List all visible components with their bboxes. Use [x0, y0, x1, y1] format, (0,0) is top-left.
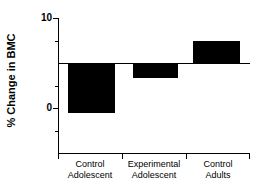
x-category-label-1-line-0: Experimental — [122, 159, 186, 170]
x-category-label-0-line-1: Adolescent — [58, 170, 122, 181]
x-category-label-1: Experimental Adolescent — [122, 159, 186, 181]
y-minor-tick-mark — [55, 86, 59, 87]
x-axis-category-labels: Control Adolescent Experimental Adolesce… — [58, 159, 250, 193]
y-minor-tick-mark — [55, 41, 59, 42]
x-category-label-2-line-0: Control — [186, 159, 250, 170]
x-category-label-0: Control Adolescent — [58, 159, 122, 181]
y-axis-title-text: % Change in BMC — [6, 33, 17, 127]
y-tick-label: 10 — [41, 13, 52, 23]
y-tick-mark — [53, 18, 59, 19]
bar-chart-figure: % Change in BMC 10 0 -10 -20 — [0, 0, 263, 193]
plot-area: 10 0 -10 -20 — [58, 18, 250, 153]
bar-experimental-adolescent — [133, 63, 178, 78]
bar-control-adults — [193, 41, 240, 63]
x-category-label-2: Control Adults — [186, 159, 250, 181]
x-category-label-2-line-1: Adults — [186, 170, 250, 181]
y-tick-mark — [53, 108, 59, 109]
x-category-label-1-line-1: Adolescent — [122, 170, 186, 181]
x-category-label-0-line-0: Control — [58, 159, 122, 170]
y-tick-label: 0 — [46, 103, 52, 113]
bar-control-adolescent — [68, 63, 115, 113]
y-axis-title: % Change in BMC — [0, 0, 22, 160]
x-axis-line — [58, 153, 250, 154]
y-minor-tick-mark — [55, 131, 59, 132]
